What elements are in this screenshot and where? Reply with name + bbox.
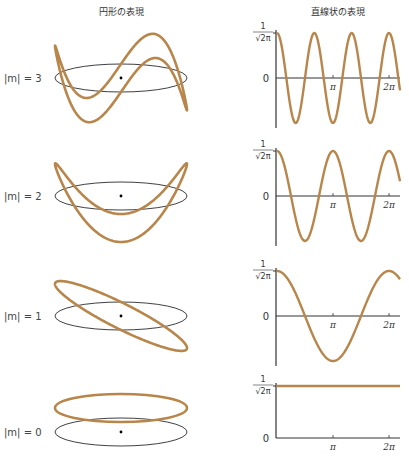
two-pi-label: 2π: [382, 200, 396, 210]
two-pi-label: 2π: [382, 442, 396, 452]
row-m3: |m| = 30π2π1√2π: [4, 22, 400, 128]
linear-plot: 0π2π1√2π: [253, 375, 400, 452]
linear-header: 直線状の表現: [311, 6, 365, 17]
circular-wave: [55, 163, 187, 242]
fraction-denominator: √2π: [255, 387, 270, 396]
fraction-numerator: 1: [260, 140, 265, 149]
pi-label: π: [329, 82, 337, 92]
nucleus-dot: [120, 315, 123, 318]
fraction-numerator: 1: [260, 375, 265, 384]
linear-plot: 0π2π1√2π: [253, 140, 400, 246]
fraction-numerator: 1: [260, 260, 265, 269]
nucleus-dot: [120, 431, 123, 434]
row-m1: |m| = 10π2π1√2π: [4, 260, 400, 366]
two-pi-label: 2π: [382, 82, 396, 92]
m-label: |m| = 1: [4, 311, 42, 323]
row-m0: |m| = 00π2π1√2π: [4, 375, 400, 452]
m-label: |m| = 3: [4, 73, 42, 85]
row-m2: |m| = 20π2π1√2π: [4, 140, 400, 246]
fraction-denominator: √2π: [255, 152, 270, 161]
fraction-denominator: √2π: [255, 34, 270, 43]
zero-label: 0: [263, 311, 269, 322]
m-label: |m| = 0: [4, 427, 42, 439]
fraction-denominator: √2π: [255, 272, 270, 281]
linear-plot: 0π2π1√2π: [253, 260, 400, 366]
nucleus-dot: [120, 77, 123, 80]
pi-label: π: [329, 442, 337, 452]
fraction-numerator: 1: [260, 22, 265, 31]
linear-plot: 0π2π1√2π: [253, 22, 400, 128]
orbital-diagram: 円形の表現 直線状の表現 |m| = 30π2π1√2π|m| = 20π2π1…: [0, 0, 409, 465]
zero-label: 0: [263, 433, 269, 444]
pi-label: π: [329, 320, 337, 330]
zero-label: 0: [263, 73, 269, 84]
nucleus-dot: [120, 195, 123, 198]
pi-label: π: [329, 200, 337, 210]
circular-header: 円形の表現: [99, 6, 144, 17]
zero-label: 0: [263, 191, 269, 202]
two-pi-label: 2π: [382, 320, 396, 330]
m-label: |m| = 2: [4, 191, 42, 203]
